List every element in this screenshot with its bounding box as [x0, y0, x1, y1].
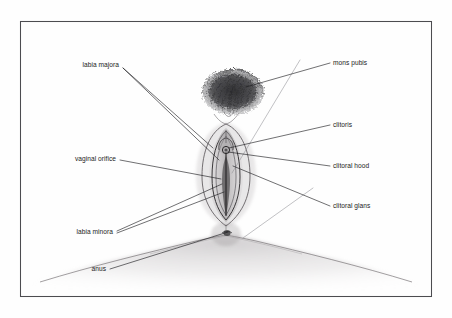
label-vaginal-orifice: vaginal orifice — [75, 155, 116, 163]
label-clitoral-glans: clitoral glans — [333, 202, 371, 210]
label-clitoris: clitoris — [333, 121, 353, 128]
label-labia-majora: labia majora — [82, 61, 119, 69]
anatomy-figure: labia majoravaginal orificelabia minoraa… — [0, 0, 452, 318]
leader-line-mons-pubis-1 — [246, 63, 330, 87]
diagram-canvas: labia majoravaginal orificelabia minoraa… — [0, 0, 452, 318]
leader-line-labia-majora-1 — [123, 68, 213, 148]
label-mons-pubis: mons pubis — [333, 59, 368, 67]
label-clitoral-hood: clitoral hood — [333, 162, 369, 169]
anatomy-drawing — [32, 69, 418, 291]
label-labia-minora: labia minora — [76, 228, 113, 235]
label-anus: anus — [92, 265, 107, 272]
pubic-hair-mass — [202, 69, 264, 117]
faint-leader-2 — [243, 188, 313, 238]
leader-line-labia-majora-2 — [123, 68, 219, 160]
